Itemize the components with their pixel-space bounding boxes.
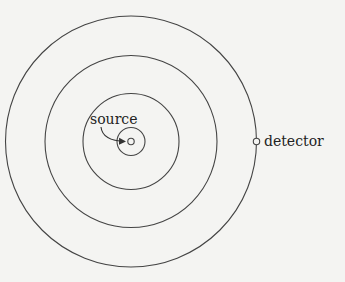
detector-marker — [253, 138, 259, 144]
detector-label: detector — [264, 133, 324, 149]
source-arrow — [101, 127, 125, 142]
source-label: source — [90, 111, 137, 127]
wavefront-diagram: source detector — [0, 0, 345, 282]
source-marker — [128, 138, 134, 144]
